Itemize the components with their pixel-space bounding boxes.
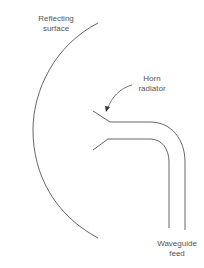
reflecting-surface-arc <box>33 23 98 238</box>
label-line: Reflecting <box>32 14 80 24</box>
label-line: radiator <box>134 84 170 94</box>
label-line: Waveguide <box>152 239 202 249</box>
label-line: feed <box>152 249 202 259</box>
waveguide-feed-label: Waveguide feed <box>152 239 202 259</box>
antenna-diagram: Reflecting surface Horn radiator Wavegui… <box>0 0 204 268</box>
horn-radiator-label: Horn radiator <box>134 74 170 94</box>
diagram-canvas <box>0 0 204 268</box>
horn-pointer-arrow <box>108 85 132 108</box>
arrowhead-icon <box>105 106 110 112</box>
label-line: Horn <box>134 74 170 84</box>
label-line: surface <box>32 24 80 34</box>
horn-lower-wall <box>93 139 169 228</box>
reflecting-surface-label: Reflecting surface <box>32 14 80 34</box>
horn-upper-wall <box>93 111 185 230</box>
